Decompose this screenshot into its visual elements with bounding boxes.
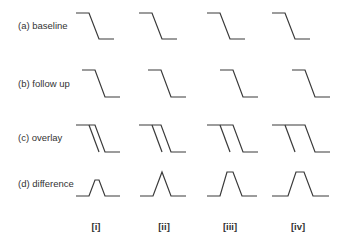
difference-bump-iii — [207, 172, 257, 196]
row-label-overlay: (c) overlay — [18, 132, 63, 143]
baseline-row — [76, 13, 310, 39]
overlay-edge-ii — [139, 125, 186, 152]
difference-bump-ii — [140, 172, 186, 196]
difference-bump-iv — [272, 172, 329, 196]
follow-up-edge-ii — [148, 70, 186, 97]
overlay-row — [76, 125, 330, 152]
edge-shift-diagram: (a) baseline (b) follow up (c) overlay (… — [0, 0, 343, 247]
difference-bump-i — [76, 180, 120, 196]
column-label-iii: [iii] — [223, 221, 237, 232]
follow-up-edge-i — [82, 70, 120, 97]
column-label-iv: [iv] — [291, 221, 305, 232]
baseline-edge-i — [76, 13, 114, 39]
row-label-baseline: (a) baseline — [18, 20, 68, 31]
baseline-edge-ii — [139, 13, 177, 39]
difference-row — [76, 172, 329, 196]
follow-up-edge-iv — [292, 70, 330, 97]
column-label-ii: [ii] — [158, 221, 170, 232]
overlay-edge-iii — [207, 125, 258, 152]
baseline-edge-iii — [207, 13, 245, 39]
column-label-i: [i] — [92, 221, 101, 232]
follow-up-edge-iii — [220, 70, 258, 97]
overlay-edge-iv — [272, 125, 330, 152]
baseline-edge-iv — [272, 13, 310, 39]
row-label-follow-up: (b) follow up — [18, 78, 70, 89]
row-label-difference: (d) difference — [18, 178, 74, 189]
follow-up-row — [82, 70, 330, 97]
